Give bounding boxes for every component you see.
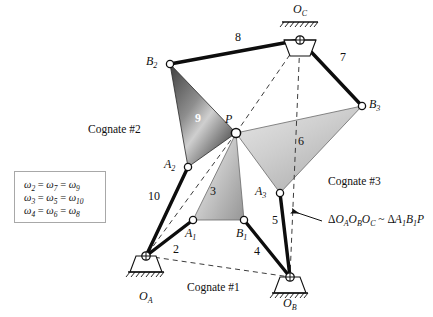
link-label-3: 3: [210, 185, 216, 197]
joint-O_A: [142, 252, 150, 260]
point-label-B_1: B1: [236, 227, 247, 242]
joint-A_3: [276, 189, 283, 196]
point-label-O_B: OB: [283, 297, 297, 312]
point-label-P: P: [225, 113, 232, 125]
point-label-O_C: OC: [293, 3, 307, 18]
cognate-label-1: Cognate #1: [187, 282, 240, 294]
similarity-arrow: [292, 211, 322, 221]
omega-equations-box: ω2 = ω7 = ω9 ω3 = ω5 = ω10 ω4 = ω6 = ω8: [14, 171, 106, 223]
link-label-2: 2: [173, 243, 179, 255]
dashed-OA-OB: [146, 256, 290, 277]
link-label-8: 8: [235, 31, 241, 43]
joint-B_1: [240, 216, 247, 223]
link-label-4: 4: [254, 245, 260, 257]
point-label-O_A: OA: [139, 290, 153, 305]
joint-A_2: [184, 163, 191, 170]
point-label-B_3: B3: [369, 98, 380, 113]
point-label-A_3: A3: [255, 185, 266, 200]
joint-B_2: [166, 60, 173, 67]
link-label-7: 7: [340, 51, 346, 63]
similarity-annotation: ΔOAOBOC ~ ΔA1B1P: [328, 214, 424, 228]
cognate-label-2: Cognate #2: [88, 124, 141, 136]
omega-equation-row: ω4 = ω6 = ω8: [24, 205, 80, 219]
point-label-A_1: A1: [185, 227, 196, 242]
cognate-linkage-figure: OC OA OB P B2 A2 A1 B1 A3 B3 2 3 4 5 6 7…: [0, 0, 433, 317]
joint-A_1: [189, 216, 196, 223]
link-label-9: 9: [195, 112, 201, 124]
link-10-OA-A2: [146, 167, 188, 256]
joint-B_3: [358, 102, 365, 109]
link-label-6: 6: [298, 135, 304, 147]
diagram-canvas: [0, 0, 433, 317]
cognate-label-3: Cognate #3: [328, 176, 381, 188]
joint-P: [231, 128, 240, 137]
point-label-B_2: B2: [146, 55, 157, 70]
omega-equation-row: ω3 = ω5 = ω10: [24, 192, 84, 206]
point-label-A_2: A2: [164, 158, 175, 173]
link-label-10: 10: [148, 190, 160, 202]
joint-O_C: [296, 36, 304, 44]
joint-O_B: [286, 273, 294, 281]
link-label-5: 5: [272, 214, 278, 226]
omega-equation-row: ω2 = ω7 = ω9: [24, 179, 80, 193]
